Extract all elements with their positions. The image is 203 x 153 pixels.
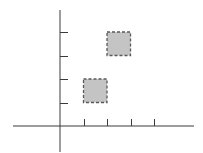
coordinate-diagram xyxy=(0,0,203,153)
squares xyxy=(84,32,131,103)
upper-square xyxy=(107,32,131,56)
lower-square xyxy=(84,79,108,103)
